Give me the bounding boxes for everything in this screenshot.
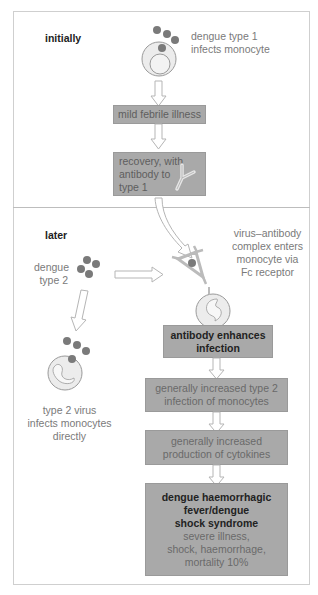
mild-febrile-illness-text: mild febrile illness [118, 108, 201, 121]
antibody-enhances-box: antibody enhances infection [163, 325, 273, 358]
dengue2-label: dengue type 2 [34, 261, 68, 287]
down-arrow-icon [151, 124, 167, 150]
dhf-box: dengue haemorrhagic fever/dengue shock s… [145, 483, 288, 576]
section-label-later: later [45, 229, 67, 241]
right-arrow-icon [115, 267, 165, 283]
monocyte-type2-icon [42, 336, 102, 396]
complex-caption: virus–antibody complex enters monocyte v… [220, 227, 315, 279]
section-label-initially: initially [45, 32, 81, 44]
antibody-icon [175, 163, 199, 193]
cytokines-box: generally increased production of cytoki… [145, 430, 288, 465]
down-arrow-icon [209, 358, 225, 380]
mild-febrile-illness-box: mild febrile illness [113, 105, 206, 124]
down-arrow-icon [151, 81, 167, 107]
monocyte-type1-icon [138, 22, 198, 82]
increased-infection-box: generally increased type 2 infection of … [145, 378, 288, 412]
dengue1-caption: dengue type 1 infects monocyte [191, 30, 270, 56]
direct-infection-caption: type 2 virus infects monocytes directly [22, 404, 117, 443]
dengue2-virus-icon [76, 255, 106, 285]
down-left-arrow-icon [68, 289, 98, 334]
